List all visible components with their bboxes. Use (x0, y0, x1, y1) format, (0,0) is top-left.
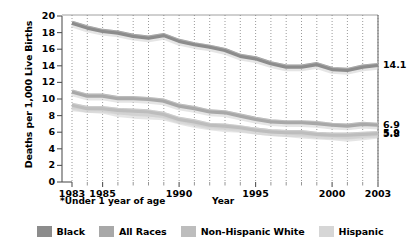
legend-item-all-races[interactable]: All Races (99, 226, 167, 237)
y-tick-label-16: 16 (33, 44, 55, 54)
legend-item-black[interactable]: Black (37, 226, 85, 237)
infant-mortality-line-chart: Deaths per 1,000 Live Births 02468101214… (0, 0, 420, 246)
x-tick-label-2000: 2000 (319, 189, 345, 199)
chart-footnote: *Under 1 year of age (60, 196, 165, 206)
y-tick-label-6: 6 (33, 127, 55, 137)
end-label-hispanic: 5.8 (383, 129, 400, 139)
x-tick-label-2003: 2003 (365, 189, 391, 199)
x-tick-label-1990: 1990 (166, 189, 192, 199)
legend-item-label: All Races (119, 226, 167, 237)
x-tick-marks (72, 182, 378, 187)
legend-swatch-icon (319, 226, 334, 237)
y-tick-label-8: 8 (33, 111, 55, 121)
legend-swatch-icon (99, 226, 114, 237)
y-axis-title: Deaths per 1,000 Live Births (23, 5, 34, 185)
end-label-black: 14.1 (383, 60, 406, 70)
y-tick-label-12: 12 (33, 77, 55, 87)
plot-area (0, 0, 420, 246)
y-tick-label-10: 10 (33, 94, 55, 104)
legend-item-label: Black (57, 226, 85, 237)
legend-item-label: Hispanic (339, 226, 384, 237)
y-tick-label-18: 18 (33, 28, 55, 38)
y-tick-label-2: 2 (33, 160, 55, 170)
legend-swatch-icon (37, 226, 52, 237)
y-tick-label-14: 14 (33, 61, 55, 71)
legend-item-hispanic[interactable]: Hispanic (319, 226, 384, 237)
y-tick-label-20: 20 (33, 11, 55, 21)
chart-legend: BlackAll RacesNon-Hispanic WhiteHispanic (0, 222, 420, 240)
x-tick-label-1995: 1995 (242, 189, 268, 199)
y-tick-marks (57, 16, 62, 182)
legend-item-label: Non-Hispanic White (201, 226, 305, 237)
legend-swatch-icon (181, 226, 196, 237)
legend-item-non-hispanic-white[interactable]: Non-Hispanic White (181, 226, 305, 237)
y-tick-label-0: 0 (33, 177, 55, 187)
x-axis-title: Year (212, 196, 234, 206)
y-tick-label-4: 4 (33, 144, 55, 154)
